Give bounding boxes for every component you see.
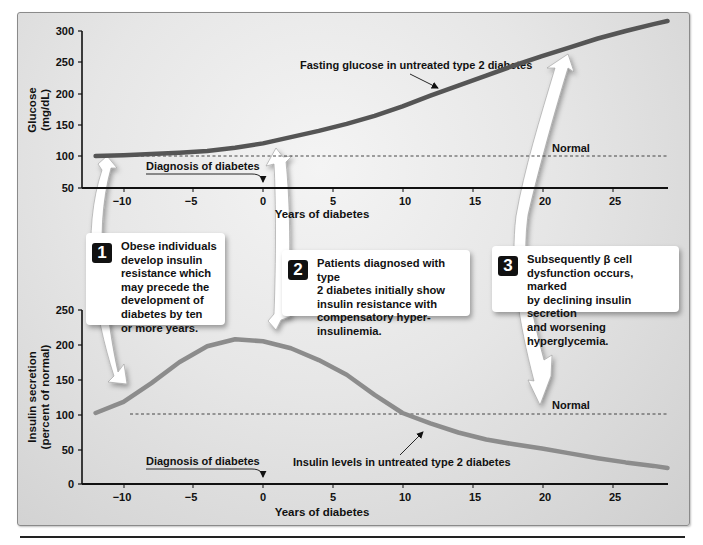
callout-2-badge: 2 <box>288 260 308 280</box>
callout-3-arrow <box>514 54 574 405</box>
glucose-ytick: 200 <box>56 88 74 100</box>
insulin-xtick: −10 <box>113 491 132 503</box>
insulin-xtick: −5 <box>185 491 198 503</box>
glucose-xlabel: Years of diabetes <box>275 208 370 220</box>
insulin-ytick: 250 <box>56 304 74 316</box>
glucose-xtick: −5 <box>185 195 198 207</box>
callout-arrows <box>91 54 574 405</box>
glucose-ylabel: Glucose <box>26 87 38 132</box>
glucose-ytick: 150 <box>56 119 74 131</box>
insulin-ytick: 50 <box>62 444 74 456</box>
callout-3-text: Subsequently β cell dysfunction occurs, … <box>527 253 671 348</box>
glucose-xtick: 15 <box>469 195 481 207</box>
glucose-curve <box>96 21 668 156</box>
callout-3-badge: 3 <box>498 256 518 276</box>
callout-2: 2 Patients diagnosed with type 2 diabete… <box>282 250 470 316</box>
insulin-diagnosis-label: Diagnosis of diabetes <box>146 455 260 467</box>
callout-3: 3 Subsequently β cell dysfunction occurs… <box>492 246 679 312</box>
callout-1-badge: 1 <box>92 243 112 263</box>
glucose-chart: 300 250 200 150 100 50 −10 −5 0 5 10 15 … <box>26 21 668 220</box>
insulin-xtick: 25 <box>609 491 621 503</box>
insulin-ytick: 0 <box>68 478 74 490</box>
insulin-ytick: 150 <box>56 374 74 386</box>
glucose-ylabel-unit: (mg/dL) <box>39 89 51 131</box>
glucose-xtick: 20 <box>539 195 551 207</box>
insulin-xtick: 5 <box>330 491 336 503</box>
insulin-xlabel: Years of diabetes <box>275 506 370 518</box>
glucose-xtick: −10 <box>113 195 132 207</box>
glucose-xtick: 10 <box>399 195 411 207</box>
callout-2-text: Patients diagnosed with type 2 diabetes … <box>317 257 462 339</box>
bottom-rule <box>20 536 685 538</box>
insulin-xtick: 20 <box>539 491 551 503</box>
glucose-xtick: 0 <box>260 195 266 207</box>
insulin-ylabel-unit: (percent of normal) <box>39 344 51 449</box>
glucose-ytick: 300 <box>56 25 74 37</box>
insulin-curve-label: Insulin levels in untreated type 2 diabe… <box>293 456 511 468</box>
glucose-ytick: 50 <box>62 182 74 194</box>
glucose-ytick: 100 <box>56 150 74 162</box>
insulin-ylabel: Insulin secretion <box>26 351 38 442</box>
insulin-xtick: 15 <box>469 491 481 503</box>
insulin-xtick: 0 <box>260 491 266 503</box>
insulin-ytick: 200 <box>56 339 74 351</box>
glucose-ytick: 250 <box>56 56 74 68</box>
callout-1-text: Obese individuals develop insulin resist… <box>121 240 217 335</box>
insulin-ytick: 100 <box>56 409 74 421</box>
insulin-normal-label: Normal <box>552 399 590 411</box>
callout-1: 1 Obese individuals develop insulin resi… <box>86 233 225 325</box>
glucose-diagnosis-label: Diagnosis of diabetes <box>146 160 260 172</box>
glucose-normal-label: Normal <box>552 142 590 154</box>
glucose-xtick: 25 <box>609 195 621 207</box>
glucose-xtick: 5 <box>330 195 336 207</box>
insulin-xtick: 10 <box>399 491 411 503</box>
